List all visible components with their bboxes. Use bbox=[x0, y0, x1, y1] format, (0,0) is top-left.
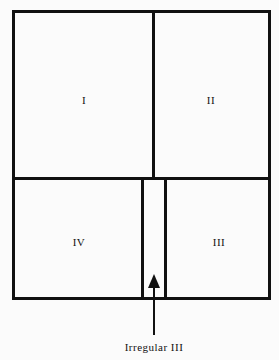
annotation-label: Irregular III bbox=[125, 341, 184, 353]
arrow-icon bbox=[0, 0, 279, 360]
